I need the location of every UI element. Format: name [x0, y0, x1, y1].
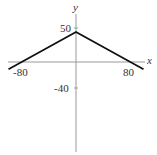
chart: y x 50 -40 -80 80 — [0, 0, 157, 155]
x-tick-label-neg80: -80 — [13, 66, 28, 78]
x-axis-label: x — [146, 54, 152, 66]
y-tick-label-50: 50 — [60, 22, 72, 34]
x-tick-label-80: 80 — [123, 66, 135, 78]
y-axis-label: y — [72, 1, 78, 13]
y-tick-label-neg40: -40 — [54, 82, 69, 94]
